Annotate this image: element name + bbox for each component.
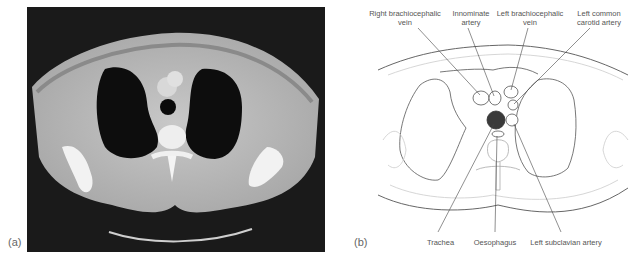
label-left-common-carotid-artery: Left common carotid artery	[568, 9, 630, 27]
label-trachea: Trachea	[418, 238, 463, 247]
label-line: Left brachiocephalic	[490, 9, 570, 18]
panel-b-label: (b)	[354, 236, 367, 248]
label-innominate-artery: Innominate artery	[446, 9, 496, 27]
label-line: Innominate	[446, 9, 496, 18]
label-line: Left common	[568, 9, 630, 18]
label-right-brachiocephalic-vein: Right brachiocephalic vein	[360, 9, 450, 27]
label-line: vein	[360, 18, 450, 27]
label-line: vein	[490, 18, 570, 27]
label-oesophagus: Oesophagus	[470, 238, 520, 247]
label-line: artery	[446, 18, 496, 27]
label-line: carotid artery	[568, 18, 630, 27]
label-left-brachiocephalic-vein: Left brachiocephalic vein	[490, 9, 570, 27]
ct-scan-image	[27, 7, 325, 252]
label-left-subclavian-artery: Left subclavian artery	[526, 238, 606, 247]
panel-a-label: (a)	[8, 236, 21, 248]
label-line: Right brachiocephalic	[360, 9, 450, 18]
anatomy-diagram: Right brachiocephalic vein Innominate ar…	[378, 0, 633, 263]
